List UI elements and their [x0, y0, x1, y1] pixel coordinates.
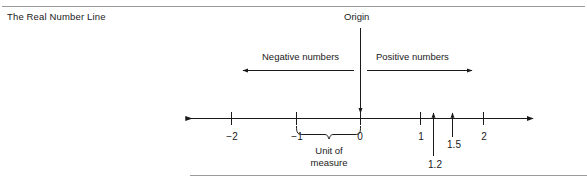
point-label-1-2: 1.2	[423, 159, 447, 170]
unit-of-measure-label: Unit ofmeasure	[297, 145, 361, 169]
tick-label-zero: 0	[352, 131, 368, 142]
number-line-graphic	[0, 0, 587, 183]
positive-numbers-label: Positive numbers	[376, 52, 449, 63]
tick-label-neg-1: −1	[288, 131, 306, 142]
negative-numbers-label: Negative numbers	[262, 52, 339, 63]
unit-of-measure-line-2: measure	[297, 157, 361, 169]
unit-of-measure-line-1: Unit of	[315, 145, 342, 156]
origin-label: Origin	[344, 12, 369, 23]
figure-title: The Real Number Line	[7, 12, 106, 23]
tick-label-pos-1: 1	[413, 131, 429, 142]
number-line-figure: The Real Number Line Origin Negative num…	[0, 0, 587, 183]
tick-label-neg-2: −2	[223, 131, 241, 142]
tick-label-pos-2: 2	[476, 131, 492, 142]
point-label-1-5: 1.5	[442, 139, 466, 150]
unit-of-measure-brace	[297, 126, 361, 139]
